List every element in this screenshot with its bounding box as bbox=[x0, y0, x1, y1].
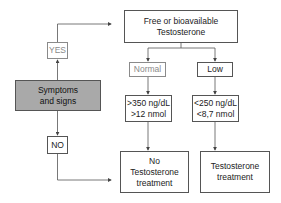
free-testosterone-box: Free or bioavailable Testosterone bbox=[124, 10, 238, 43]
no-testosterone-treatment-box: No Testosterone treatment bbox=[120, 151, 189, 193]
low-values-box: <250 ng/dL <8,7 nmol bbox=[192, 95, 239, 122]
yes-box: YES bbox=[47, 42, 68, 59]
symptoms-label: Symptoms and signs bbox=[16, 85, 100, 107]
normal-values-ngdl: >350 ng/dL bbox=[127, 98, 170, 109]
free-testosterone-label: Free or bioavailable Testosterone bbox=[125, 16, 237, 38]
treatment-line2: treatment bbox=[217, 172, 253, 183]
normal-values-box: >350 ng/dL >12 nmol bbox=[125, 95, 172, 122]
low-values-ngdl: <250 ng/dL bbox=[194, 98, 237, 109]
low-label: Low bbox=[207, 64, 223, 75]
normal-values-nmol: >12 nmol bbox=[131, 109, 166, 120]
testosterone-treatment-box: Testosterone treatment bbox=[200, 151, 270, 193]
yes-label: YES bbox=[49, 45, 66, 56]
arrow-no-to-notreatment bbox=[58, 154, 112, 180]
normal-label: Normal bbox=[134, 64, 161, 75]
symptoms-and-signs-box: Symptoms and signs bbox=[15, 80, 101, 111]
low-values-nmol: <8,7 nmol bbox=[197, 109, 235, 120]
no-label: NO bbox=[51, 140, 64, 151]
no-box: NO bbox=[47, 136, 68, 154]
no-treatment-line1: No bbox=[149, 156, 160, 167]
low-box: Low bbox=[197, 62, 233, 77]
arrow-yes-to-top bbox=[58, 24, 112, 42]
no-treatment-line3: treatment bbox=[137, 178, 173, 189]
normal-box: Normal bbox=[129, 62, 166, 77]
no-treatment-line2: Testosterone bbox=[130, 167, 179, 178]
treatment-line1: Testosterone bbox=[211, 161, 260, 172]
